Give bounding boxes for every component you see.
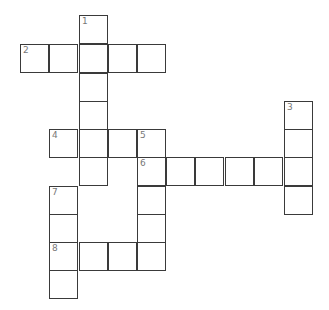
clue-number: 3	[287, 102, 293, 113]
crossword-cell-2[interactable]: 2	[20, 44, 49, 73]
crossword-cell[interactable]	[49, 44, 78, 73]
crossword-cell[interactable]	[284, 186, 313, 215]
crossword-cell[interactable]	[254, 157, 283, 186]
crossword-cell-7[interactable]: 7	[49, 186, 78, 215]
crossword-cell[interactable]	[195, 157, 224, 186]
crossword-cell[interactable]	[79, 242, 108, 271]
crossword-cell[interactable]	[137, 242, 166, 271]
clue-number: 7	[52, 187, 58, 198]
crossword-cell[interactable]	[284, 129, 313, 158]
crossword-grid: 12345678	[0, 0, 329, 310]
crossword-cell[interactable]	[284, 157, 313, 186]
clue-number: 1	[82, 16, 88, 27]
crossword-cell-3[interactable]: 3	[284, 101, 313, 130]
crossword-cell[interactable]	[225, 157, 254, 186]
crossword-cell[interactable]	[108, 44, 137, 73]
clue-number: 4	[52, 130, 58, 141]
crossword-cell[interactable]	[49, 214, 78, 243]
crossword-cell[interactable]	[79, 101, 108, 130]
crossword-cell[interactable]	[137, 186, 166, 215]
crossword-cell[interactable]	[79, 44, 108, 73]
crossword-cell-6[interactable]: 6	[137, 157, 166, 186]
crossword-cell[interactable]	[137, 44, 166, 73]
crossword-cell-8[interactable]: 8	[49, 242, 78, 271]
clue-number: 2	[23, 45, 29, 56]
crossword-cell[interactable]	[137, 214, 166, 243]
crossword-cell-5[interactable]: 5	[137, 129, 166, 158]
crossword-cell[interactable]	[108, 129, 137, 158]
clue-number: 6	[140, 158, 146, 169]
crossword-cell[interactable]	[166, 157, 195, 186]
crossword-cell-4[interactable]: 4	[49, 129, 78, 158]
clue-number: 5	[140, 130, 146, 141]
crossword-cell[interactable]	[79, 129, 108, 158]
clue-number: 8	[52, 243, 58, 254]
crossword-cell[interactable]	[49, 270, 78, 299]
crossword-cell[interactable]	[79, 157, 108, 186]
crossword-cell[interactable]	[108, 242, 137, 271]
crossword-cell-1[interactable]: 1	[79, 15, 108, 44]
crossword-cell[interactable]	[79, 73, 108, 102]
